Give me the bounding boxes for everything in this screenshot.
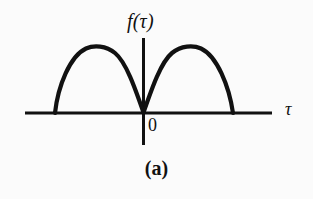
left-arch-curve: [55, 46, 144, 113]
x-axis-label: τ: [285, 100, 291, 118]
right-arch-curve: [144, 46, 234, 113]
y-axis-label: f(τ): [127, 11, 154, 31]
figure-panel: f(τ) τ 0 (a): [0, 0, 313, 199]
panel-caption: (a): [0, 158, 313, 178]
origin-label: 0: [148, 116, 157, 134]
